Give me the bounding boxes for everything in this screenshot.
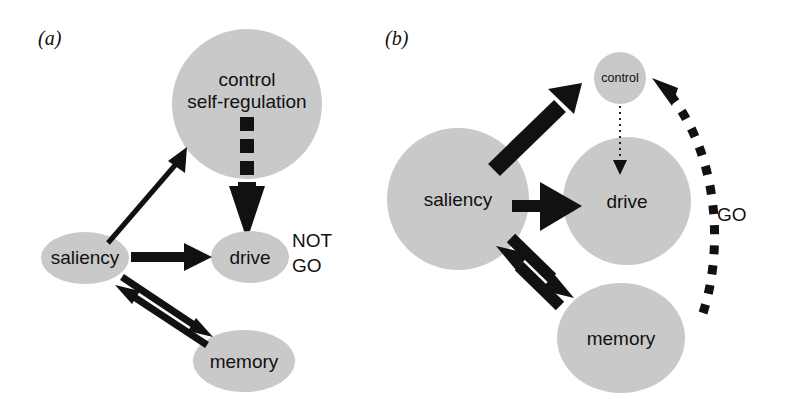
node-control-a-label-line2: self-regulation bbox=[187, 91, 306, 112]
annotation-not-go-line1: NOT bbox=[292, 230, 333, 251]
node-memory-b-label: memory bbox=[587, 328, 656, 349]
node-control-a-label-line1: control bbox=[218, 69, 275, 90]
node-drive-a-label: drive bbox=[229, 247, 270, 268]
edge-saliency-to-control-a bbox=[108, 147, 187, 243]
node-saliency-a-label: saliency bbox=[51, 247, 120, 268]
node-drive-b-label: drive bbox=[606, 191, 647, 212]
node-memory-a-label: memory bbox=[210, 351, 279, 372]
edge-saliency-to-memory-a bbox=[122, 277, 213, 337]
node-saliency-b-label: saliency bbox=[424, 189, 493, 210]
annotation-not-go-line2: GO bbox=[292, 255, 322, 276]
node-control-b-label: control bbox=[601, 71, 639, 85]
annotation-go: GO bbox=[717, 204, 747, 225]
edge-memory-to-saliency-a bbox=[115, 285, 207, 345]
edge-saliency-to-drive-a bbox=[131, 243, 212, 271]
figure-root: (a) control self-regulation saliency dri… bbox=[0, 0, 788, 407]
panel-b-label: (b) bbox=[385, 27, 409, 50]
panel-b: (b) control saliency drive memory GO bbox=[385, 27, 747, 393]
panel-a: (a) control self-regulation saliency dri… bbox=[38, 27, 333, 392]
edge-saliency-to-control-b bbox=[494, 83, 582, 170]
panel-a-label: (a) bbox=[38, 27, 62, 50]
